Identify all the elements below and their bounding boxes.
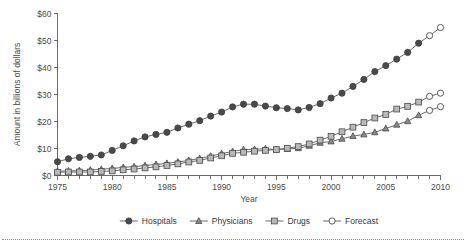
data-point-hospitals: [306, 104, 312, 110]
legend-item-physicians[interactable]: Physicians: [190, 216, 253, 226]
data-point-drugs: [55, 169, 61, 175]
data-point-hospitals: [98, 152, 104, 158]
data-point-drugs: [273, 147, 279, 153]
data-point-drugs: [350, 124, 356, 130]
x-axis-title: Year: [240, 194, 257, 204]
series-line-hospitals: [58, 28, 441, 162]
chart-figure: $0$10$20$30$40$50$60 1975198019851990199…: [0, 0, 466, 251]
data-point-hospitals: [328, 95, 334, 101]
series-markers-drugs: [55, 90, 444, 175]
x-tick-label: 1985: [157, 182, 176, 192]
legend-item-hospitals[interactable]: Hospitals: [120, 216, 177, 226]
x-tick-label: 1990: [212, 182, 231, 192]
legend-label: Physicians: [212, 216, 253, 226]
data-point-hospitals: [262, 103, 268, 109]
data-point-hospitals: [295, 107, 301, 113]
data-point-hospitals: [394, 56, 400, 62]
data-point-hospitals: [109, 147, 115, 153]
data-point-hospitals: [142, 134, 148, 140]
forecast-point-physicians: [426, 107, 432, 113]
x-tick-label: 2010: [431, 182, 450, 192]
data-point-hospitals: [54, 159, 60, 165]
forecast-point-hospitals: [426, 33, 432, 39]
data-point-hospitals: [65, 156, 71, 162]
data-point-drugs: [120, 167, 126, 173]
data-point-drugs: [252, 148, 258, 154]
data-point-hospitals: [153, 131, 159, 137]
forecast-point-physicians: [437, 104, 443, 110]
legend-marker-forecast: [329, 218, 335, 224]
y-axis: $0$10$20$30$40$50$60: [37, 9, 57, 181]
data-point-drugs: [306, 141, 312, 147]
data-point-drugs: [164, 163, 170, 169]
data-point-drugs: [317, 137, 323, 143]
legend-marker-hospitals: [126, 218, 132, 224]
data-point-drugs: [219, 153, 225, 159]
y-tick-label: $30: [37, 90, 51, 100]
chart-legend: HospitalsPhysiciansDrugsForecast: [120, 216, 379, 226]
data-point-drugs: [142, 165, 148, 171]
data-point-drugs: [197, 157, 203, 163]
data-point-drugs: [230, 150, 236, 156]
data-point-hospitals: [383, 63, 389, 69]
data-point-drugs: [295, 144, 301, 150]
data-point-physicians: [405, 118, 411, 124]
data-point-drugs: [339, 129, 345, 135]
forecast-point-hospitals: [437, 24, 443, 30]
x-axis: 19751980198519901995200020052010: [48, 176, 450, 192]
bottom-divider: [2, 239, 464, 241]
data-point-hospitals: [361, 76, 367, 82]
data-point-hospitals: [164, 129, 170, 135]
data-point-hospitals: [76, 154, 82, 160]
data-point-drugs: [208, 155, 214, 161]
data-point-hospitals: [186, 121, 192, 127]
y-tick-label: $60: [37, 9, 51, 19]
data-point-drugs: [87, 169, 93, 175]
data-point-drugs: [416, 99, 422, 105]
legend-label: Forecast: [345, 216, 379, 226]
data-point-hospitals: [372, 68, 378, 74]
data-point-drugs: [109, 168, 115, 174]
data-point-drugs: [405, 103, 411, 109]
series-line-drugs: [58, 93, 441, 172]
y-tick-label: $0: [42, 171, 52, 181]
data-point-hospitals: [87, 153, 93, 159]
data-point-hospitals: [405, 49, 411, 55]
data-point-hospitals: [273, 105, 279, 111]
data-point-hospitals: [284, 105, 290, 111]
forecast-point-drugs: [437, 90, 443, 96]
data-series-group: [54, 24, 443, 175]
x-tick-label: 2005: [376, 182, 395, 192]
y-axis-title: Amount in billions of dollars: [12, 43, 22, 146]
data-point-drugs: [263, 147, 269, 153]
y-tick-label: $40: [37, 63, 51, 73]
legend-label: Hospitals: [142, 216, 177, 226]
data-point-hospitals: [339, 90, 345, 96]
data-point-hospitals: [317, 101, 323, 107]
data-point-drugs: [394, 106, 400, 112]
data-point-hospitals: [416, 40, 422, 46]
data-point-hospitals: [219, 109, 225, 115]
data-point-drugs: [284, 145, 290, 151]
x-tick-label: 1995: [267, 182, 286, 192]
legend-label: Drugs: [287, 216, 310, 226]
data-point-drugs: [131, 166, 137, 172]
data-point-physicians: [415, 112, 421, 118]
series-markers-hospitals: [54, 24, 443, 164]
data-point-drugs: [328, 133, 334, 139]
x-tick-label: 1975: [48, 182, 67, 192]
legend-item-forecast[interactable]: Forecast: [323, 216, 379, 226]
x-tick-label: 2000: [322, 182, 341, 192]
data-point-drugs: [361, 120, 367, 126]
x-tick-label: 1980: [103, 182, 122, 192]
line-chart: $0$10$20$30$40$50$60 1975198019851990199…: [0, 0, 466, 251]
legend-item-drugs[interactable]: Drugs: [265, 216, 310, 226]
data-point-hospitals: [197, 118, 203, 124]
data-point-drugs: [186, 159, 192, 165]
y-tick-label: $50: [37, 36, 51, 46]
data-point-drugs: [383, 112, 389, 118]
y-tick-label: $20: [37, 117, 51, 127]
data-point-hospitals: [120, 143, 126, 149]
forecast-point-drugs: [426, 93, 432, 99]
data-point-hospitals: [251, 101, 257, 107]
